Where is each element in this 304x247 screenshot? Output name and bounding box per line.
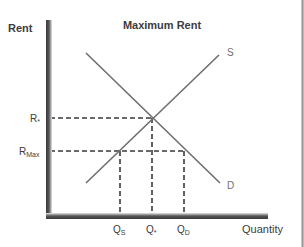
- y-tick-r-star: R*: [30, 113, 40, 125]
- x-tick-q-d: QD: [177, 224, 190, 236]
- chart-title: Maximum Rent: [123, 19, 202, 31]
- supply-curve: [86, 55, 219, 183]
- svg-text:QS: QS: [113, 224, 126, 236]
- x-axis-label: Quantity: [242, 223, 283, 235]
- y-axis-label: Rent: [8, 22, 33, 34]
- svg-text:QD: QD: [177, 224, 190, 236]
- svg-text:Q*: Q*: [146, 224, 157, 236]
- demand-label: D: [227, 180, 234, 191]
- svg-text:R*: R*: [30, 113, 40, 125]
- dashed-guides: [50, 118, 184, 216]
- x-tick-q-star: Q*: [146, 224, 157, 236]
- right-border: [301, 0, 304, 247]
- y-axis: [46, 20, 52, 219]
- svg-text:RMax: RMax: [19, 146, 40, 158]
- x-tick-q-s: QS: [113, 224, 126, 236]
- supply-label: S: [227, 47, 234, 58]
- rent-ceiling-chart: Maximum Rent Rent Quantity S D R* RMax Q…: [0, 0, 304, 247]
- x-axis: [46, 213, 268, 219]
- y-tick-r-max: RMax: [19, 146, 40, 158]
